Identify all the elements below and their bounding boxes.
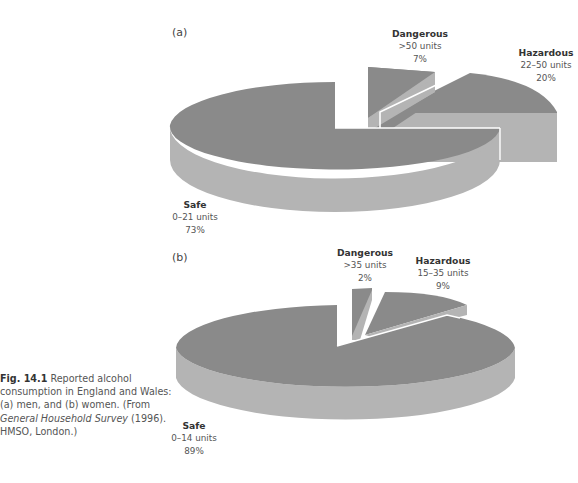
pie-a-label-safe: Safe 0–21 units 73% [165, 199, 225, 236]
pie-b-hazardous-name: Hazardous [405, 255, 481, 267]
pie-a-dangerous-name: Dangerous [372, 28, 468, 40]
pie-b-safe-name: Safe [164, 420, 224, 432]
pie-a-hazardous-name: Hazardous [509, 47, 578, 59]
pie-b-slice-safe [176, 305, 515, 420]
pie-a-safe-name: Safe [165, 199, 225, 211]
pie-a-hazardous-range: 22–50 units [509, 59, 578, 71]
caption-source-title: General Household Survey [0, 413, 128, 424]
pie-b-label-dangerous: Dangerous >35 units 2% [334, 247, 396, 284]
pie-a-dangerous-range: >50 units [372, 40, 468, 52]
pie-b-label-hazardous: Hazardous 15–35 units 9% [405, 255, 481, 292]
pie-a-safe-pct: 73% [165, 224, 225, 236]
panel-a-label: (a) [172, 26, 187, 39]
pie-a [170, 67, 557, 212]
pie-b-label-safe: Safe 0–14 units 89% [164, 420, 224, 457]
pie-b-dangerous-name: Dangerous [334, 247, 396, 259]
pie-b [176, 288, 515, 420]
figure-caption: Fig. 14.1 Reported alcohol consumption i… [0, 372, 172, 438]
pie-b-safe-range: 0–14 units [164, 432, 224, 444]
pie-b-hazardous-pct: 9% [405, 280, 481, 292]
pie-b-dangerous-pct: 2% [334, 272, 396, 284]
pie-b-safe-pct: 89% [164, 445, 224, 457]
pie-a-safe-range: 0–21 units [165, 211, 225, 223]
pie-a-hazardous-pct: 20% [509, 72, 578, 84]
panel-b-label: (b) [172, 251, 188, 264]
pie-a-dangerous-pct: 7% [372, 53, 468, 65]
pie-a-label-dangerous: Dangerous >50 units 7% [372, 28, 468, 65]
figure-number: Fig. 14.1 [0, 373, 47, 384]
pie-a-label-hazardous: Hazardous 22–50 units 20% [509, 47, 578, 84]
pie-b-dangerous-range: >35 units [334, 259, 396, 271]
pie-b-hazardous-range: 15–35 units [405, 267, 481, 279]
